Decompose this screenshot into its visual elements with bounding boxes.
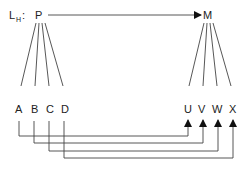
arrow-a-to-u — [19, 120, 188, 136]
node-u: U — [184, 103, 192, 115]
node-d: D — [61, 103, 69, 115]
node-m: M — [203, 9, 212, 21]
title-label: L — [9, 9, 15, 21]
diagram-canvas: L H : P M A B C D U V W X — [0, 0, 248, 169]
left-nodes: A B C D — [15, 103, 69, 115]
title-colon: : — [22, 9, 25, 21]
arrow-c-to-w — [49, 120, 218, 151]
p-fan-lines — [21, 23, 63, 86]
node-x: X — [229, 103, 237, 115]
right-nodes: U V W X — [184, 103, 237, 115]
arrow-d-to-x — [64, 120, 233, 158]
node-b: B — [31, 103, 38, 115]
node-w: W — [212, 103, 223, 115]
m-fan-lines — [189, 23, 231, 86]
diagram-title: L H : — [9, 9, 25, 23]
node-v: V — [198, 103, 206, 115]
node-a: A — [15, 103, 23, 115]
node-c: C — [46, 103, 54, 115]
node-p: P — [35, 9, 42, 21]
title-subscript: H — [16, 16, 21, 23]
arrow-b-to-v — [34, 120, 203, 143]
